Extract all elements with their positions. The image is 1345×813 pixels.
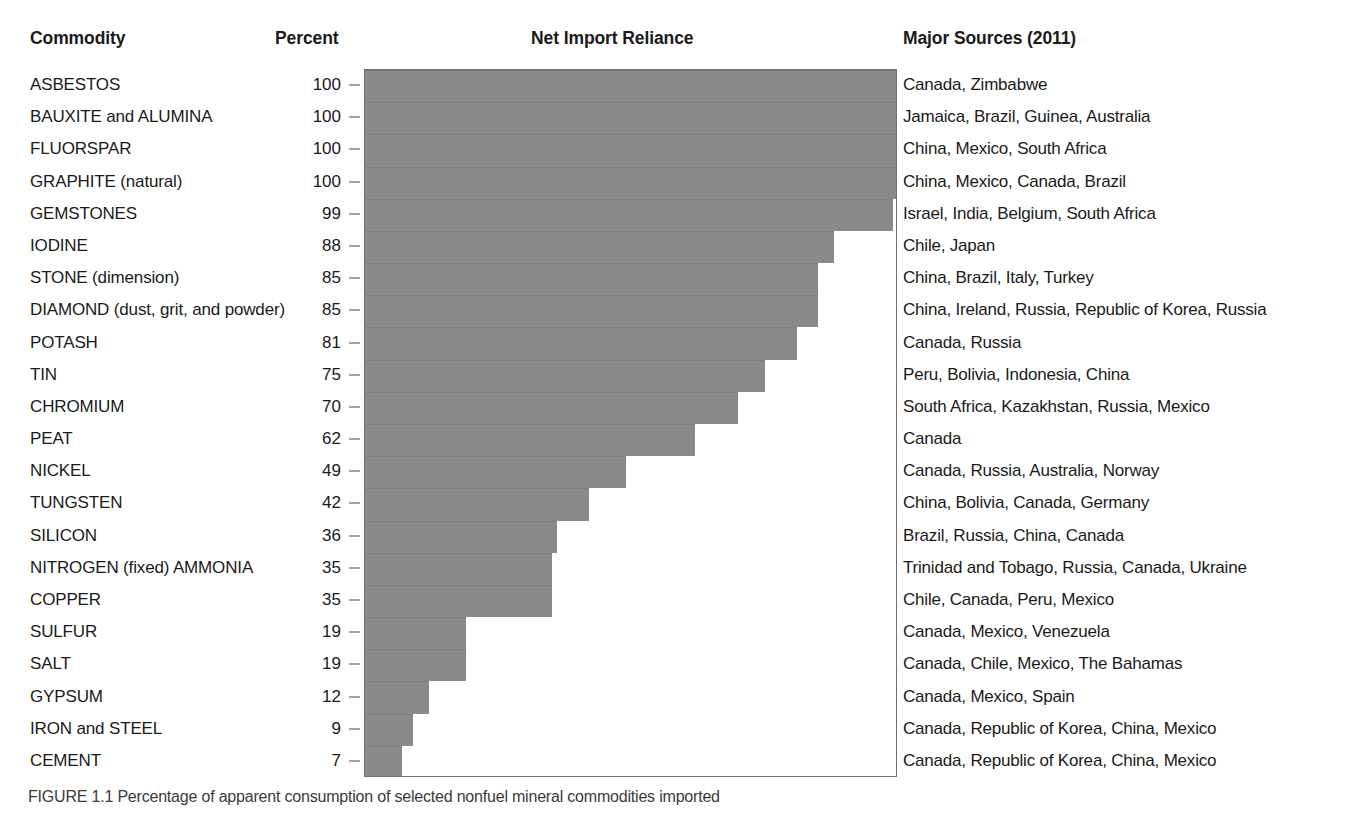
percent-value: 85 [245, 268, 341, 288]
commodity-label: POTASH [30, 333, 98, 353]
table-row: GEMSTONES99Israel, India, Belgium, South… [0, 198, 1345, 230]
percent-value: 49 [245, 461, 341, 481]
major-sources-value: Canada, Russia [903, 333, 1021, 353]
axis-tick [349, 632, 360, 633]
major-sources-value: Trinidad and Tobago, Russia, Canada, Ukr… [903, 558, 1247, 578]
major-sources-value: South Africa, Kazakhstan, Russia, Mexico [903, 397, 1210, 417]
axis-tick [349, 760, 360, 761]
table-row: PEAT62Canada [0, 423, 1345, 455]
axis-tick [349, 535, 360, 536]
axis-tick [349, 439, 360, 440]
axis-tick [349, 503, 360, 504]
percent-value: 100 [245, 75, 341, 95]
commodity-label: CHROMIUM [30, 397, 124, 417]
table-row: ASBESTOS100Canada, Zimbabwe [0, 69, 1345, 101]
commodity-label: IODINE [30, 236, 88, 256]
table-row: TIN75Peru, Bolivia, Indonesia, China [0, 359, 1345, 391]
axis-tick [349, 342, 360, 343]
major-sources-value: Brazil, Russia, China, Canada [903, 526, 1124, 546]
major-sources-value: Canada, Mexico, Venezuela [903, 622, 1110, 642]
axis-tick [349, 85, 360, 86]
major-sources-value: Chile, Japan [903, 236, 995, 256]
table-header: Commodity Percent Net Import Reliance Ma… [0, 28, 1345, 54]
percent-value: 70 [245, 397, 341, 417]
table-row: IRON and STEEL9Canada, Republic of Korea… [0, 713, 1345, 745]
percent-value: 88 [245, 236, 341, 256]
major-sources-value: China, Bolivia, Canada, Germany [903, 493, 1149, 513]
percent-value: 100 [245, 107, 341, 127]
commodity-label: CEMENT [30, 751, 101, 771]
percent-value: 75 [245, 365, 341, 385]
commodity-label: NITROGEN (fixed) AMMONIA [30, 558, 253, 578]
table-row: STONE (dimension)85China, Brazil, Italy,… [0, 262, 1345, 294]
axis-tick [349, 213, 360, 214]
table-row: FLUORSPAR100China, Mexico, South Africa [0, 133, 1345, 165]
table-row: TUNGSTEN42China, Bolivia, Canada, German… [0, 487, 1345, 519]
major-sources-value: Canada, Zimbabwe [903, 75, 1047, 95]
axis-tick [349, 567, 360, 568]
table-row: SILICON36Brazil, Russia, China, Canada [0, 520, 1345, 552]
table-row: IODINE88Chile, Japan [0, 230, 1345, 262]
axis-tick [349, 599, 360, 600]
major-sources-value: China, Ireland, Russia, Republic of Kore… [903, 300, 1266, 320]
axis-tick [349, 278, 360, 279]
commodity-label: TIN [30, 365, 57, 385]
commodity-label: GYPSUM [30, 687, 103, 707]
percent-value: 36 [245, 526, 341, 546]
percent-value: 12 [245, 687, 341, 707]
percent-value: 99 [245, 204, 341, 224]
column-header-net-import-reliance: Net Import Reliance [531, 28, 693, 49]
column-header-major-sources: Major Sources (2011) [903, 28, 1076, 49]
major-sources-value: Israel, India, Belgium, South Africa [903, 204, 1156, 224]
axis-tick [349, 117, 360, 118]
percent-value: 81 [245, 333, 341, 353]
percent-value: 35 [245, 590, 341, 610]
commodity-label: SALT [30, 654, 71, 674]
commodity-label: GRAPHITE (natural) [30, 172, 182, 192]
table-row: GRAPHITE (natural)100China, Mexico, Cana… [0, 166, 1345, 198]
percent-value: 19 [245, 654, 341, 674]
axis-tick [349, 374, 360, 375]
commodity-label: COPPER [30, 590, 101, 610]
percent-value: 35 [245, 558, 341, 578]
major-sources-value: Canada, Russia, Australia, Norway [903, 461, 1159, 481]
table-row: BAUXITE and ALUMINA100Jamaica, Brazil, G… [0, 101, 1345, 133]
major-sources-value: Peru, Bolivia, Indonesia, China [903, 365, 1129, 385]
commodity-label: BAUXITE and ALUMINA [30, 107, 212, 127]
column-header-percent: Percent [275, 28, 339, 49]
percent-value: 42 [245, 493, 341, 513]
axis-tick [349, 245, 360, 246]
axis-tick [349, 664, 360, 665]
table-row: SULFUR19Canada, Mexico, Venezuela [0, 616, 1345, 648]
figure-caption: FIGURE 1.1 Percentage of apparent consum… [28, 788, 1328, 806]
major-sources-value: China, Brazil, Italy, Turkey [903, 268, 1094, 288]
table-row: NICKEL49Canada, Russia, Australia, Norwa… [0, 455, 1345, 487]
chart-rows: ASBESTOS100Canada, ZimbabweBAUXITE and A… [0, 69, 1345, 777]
column-header-commodity: Commodity [30, 28, 125, 49]
axis-tick [349, 406, 360, 407]
major-sources-value: Canada, Mexico, Spain [903, 687, 1075, 707]
commodity-label: PEAT [30, 429, 73, 449]
axis-tick [349, 728, 360, 729]
table-row: NITROGEN (fixed) AMMONIA35Trinidad and T… [0, 552, 1345, 584]
axis-tick [349, 149, 360, 150]
table-row: COPPER35Chile, Canada, Peru, Mexico [0, 584, 1345, 616]
axis-tick [349, 310, 360, 311]
percent-value: 7 [245, 751, 341, 771]
major-sources-value: Jamaica, Brazil, Guinea, Australia [903, 107, 1150, 127]
table-row: DIAMOND (dust, grit, and powder)85China,… [0, 294, 1345, 326]
axis-tick [349, 471, 360, 472]
table-row: CEMENT7Canada, Republic of Korea, China,… [0, 745, 1345, 777]
percent-value: 19 [245, 622, 341, 642]
commodity-label: TUNGSTEN [30, 493, 122, 513]
major-sources-value: Canada, Chile, Mexico, The Bahamas [903, 654, 1182, 674]
percent-value: 85 [245, 300, 341, 320]
commodity-label: ASBESTOS [30, 75, 120, 95]
major-sources-value: Canada, Republic of Korea, China, Mexico [903, 751, 1216, 771]
major-sources-value: Canada, Republic of Korea, China, Mexico [903, 719, 1216, 739]
major-sources-value: Chile, Canada, Peru, Mexico [903, 590, 1114, 610]
major-sources-value: Canada [903, 429, 961, 449]
commodity-label: FLUORSPAR [30, 139, 131, 159]
axis-tick [349, 696, 360, 697]
percent-value: 9 [245, 719, 341, 739]
